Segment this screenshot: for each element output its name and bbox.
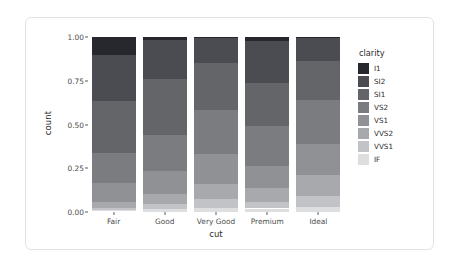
bar-segment[interactable]: [143, 135, 187, 171]
x-axis-tick-label: Ideal: [309, 217, 327, 226]
legend-item[interactable]: SI2: [358, 75, 393, 88]
legend: clarity I1SI2SI1VS2VS1VVS2VVS1IF: [358, 48, 393, 166]
bar-segment[interactable]: [296, 144, 340, 175]
legend-color-swatch: [358, 102, 369, 113]
legend-color-swatch: [358, 76, 369, 87]
plot-panel: [88, 37, 344, 212]
x-axis-tick-label: Premium: [251, 217, 284, 226]
bar-segment[interactable]: [194, 184, 238, 199]
y-axis-tick-labels: 0.000.250.500.751.00: [54, 18, 84, 249]
x-axis-tick-mark: [164, 212, 165, 215]
legend-color-swatch: [358, 154, 369, 165]
legend-item[interactable]: I1: [358, 62, 393, 75]
legend-item-label: VVS1: [374, 142, 393, 151]
legend-item-label: SI2: [374, 77, 385, 86]
bar-segment[interactable]: [245, 126, 289, 166]
y-axis-title: count: [43, 83, 53, 163]
legend-color-swatch: [358, 89, 369, 100]
bar-segment[interactable]: [92, 183, 136, 202]
y-axis-tick-mark: [85, 124, 88, 125]
bar-segment[interactable]: [194, 199, 238, 208]
bar-segment[interactable]: [296, 175, 340, 196]
y-axis-tick-label: 0.25: [54, 164, 84, 173]
bar-segment[interactable]: [245, 188, 289, 202]
legend-item[interactable]: VS1: [358, 114, 393, 127]
y-axis-tick-label: 0.00: [54, 208, 84, 217]
bar-segment[interactable]: [143, 40, 187, 79]
bar-column[interactable]: [92, 37, 136, 212]
legend-item[interactable]: VS2: [358, 101, 393, 114]
x-axis-title: cut: [88, 229, 344, 239]
legend-title: clarity: [358, 48, 393, 58]
bar-column[interactable]: [245, 37, 289, 212]
legend-item-label: IF: [374, 155, 380, 164]
x-axis-tick-label: Very Good: [197, 217, 235, 226]
legend-color-swatch: [358, 128, 369, 139]
x-axis-tick-mark: [267, 212, 268, 215]
bar-column[interactable]: [194, 37, 238, 212]
legend-item[interactable]: IF: [358, 153, 393, 166]
bar-segment[interactable]: [194, 38, 238, 63]
x-axis-tick-label: Fair: [107, 217, 120, 226]
y-axis-tick-mark: [85, 37, 88, 38]
legend-item-label: VS1: [374, 116, 388, 125]
legend-item[interactable]: VVS2: [358, 127, 393, 140]
bar-segment[interactable]: [194, 63, 238, 110]
bar-segment[interactable]: [296, 196, 340, 207]
bar-segment[interactable]: [296, 61, 340, 100]
legend-item[interactable]: SI1: [358, 88, 393, 101]
x-axis-tick-label: Good: [155, 217, 174, 226]
y-axis-tick-label: 0.50: [54, 120, 84, 129]
y-axis-tick-mark: [85, 212, 88, 213]
legend-item-label: I1: [374, 64, 381, 73]
bar-segment[interactable]: [296, 38, 340, 61]
legend-color-swatch: [358, 115, 369, 126]
x-axis-tick-mark: [113, 212, 114, 215]
bar-segment[interactable]: [296, 100, 340, 144]
bar-column[interactable]: [143, 37, 187, 212]
legend-items: I1SI2SI1VS2VS1VVS2VVS1IF: [358, 62, 393, 166]
x-axis-tick-mark: [318, 212, 319, 215]
bar-segment[interactable]: [92, 101, 136, 153]
legend-item-label: SI1: [374, 90, 385, 99]
legend-color-swatch: [358, 63, 369, 74]
bar-segment[interactable]: [194, 110, 238, 154]
legend-color-swatch: [358, 141, 369, 152]
bar-segment[interactable]: [245, 41, 289, 84]
bar-segment[interactable]: [92, 153, 136, 183]
y-axis-tick-mark: [85, 80, 88, 81]
legend-item-label: VVS2: [374, 129, 393, 138]
y-axis-tick-label: 1.00: [54, 33, 84, 42]
plot-root: count 0.000.250.500.751.00 cut clarity I…: [26, 18, 433, 249]
bar-segment[interactable]: [143, 79, 187, 135]
legend-item-label: VS2: [374, 103, 388, 112]
bar-segment[interactable]: [245, 83, 289, 126]
bar-segment[interactable]: [143, 194, 187, 204]
x-axis-tick-mark: [216, 212, 217, 215]
y-axis-tick-mark: [85, 168, 88, 169]
bar-segment[interactable]: [245, 166, 289, 188]
chart-card: count 0.000.250.500.751.00 cut clarity I…: [25, 17, 434, 250]
bar-segment[interactable]: [92, 37, 136, 55]
bar-segment[interactable]: [92, 55, 136, 101]
y-axis-tick-label: 0.75: [54, 76, 84, 85]
bar-segment[interactable]: [194, 154, 238, 184]
bar-segment[interactable]: [143, 171, 187, 194]
bar-column[interactable]: [296, 37, 340, 212]
legend-item[interactable]: VVS1: [358, 140, 393, 153]
bar-segment[interactable]: [92, 210, 136, 211]
